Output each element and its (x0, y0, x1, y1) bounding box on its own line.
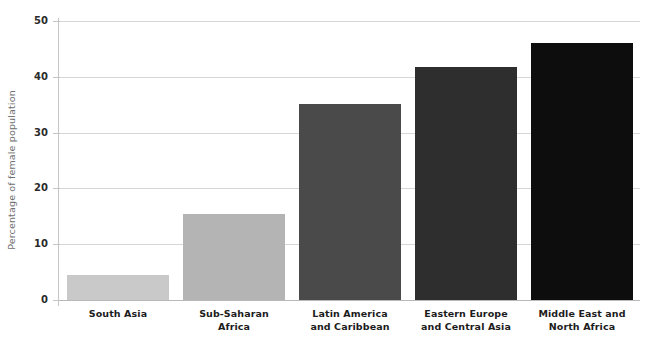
bar[interactable] (531, 43, 633, 300)
x-axis-label-line: South Asia (54, 308, 182, 321)
y-axis-tick (53, 244, 60, 245)
gridline (60, 300, 640, 301)
x-axis-label: Middle East andNorth Africa (518, 308, 646, 333)
x-axis-label-line: and Caribbean (286, 321, 414, 334)
x-axis-label-line: Africa (170, 321, 298, 334)
gridline (60, 21, 640, 22)
x-axis-label-line: Latin America (286, 308, 414, 321)
y-axis-tick (53, 21, 60, 22)
bar-chart: Percentage of female population 01020304… (0, 0, 653, 340)
y-axis-tick-label: 50 (8, 16, 48, 26)
y-axis-tick (53, 188, 60, 189)
y-axis-tick-label: 0 (8, 295, 48, 305)
y-axis-tick (53, 133, 60, 134)
x-axis-label: South Asia (54, 308, 182, 321)
x-axis-label: Eastern Europeand Central Asia (402, 308, 530, 333)
x-axis-label-line: North Africa (518, 321, 646, 334)
x-axis-label: Sub-SaharanAfrica (170, 308, 298, 333)
bar[interactable] (67, 275, 169, 300)
y-axis-title: Percentage of female population (0, 0, 22, 340)
y-axis-tick-label: 20 (8, 183, 48, 193)
x-axis-label-line: Middle East and (518, 308, 646, 321)
bar[interactable] (183, 214, 285, 300)
bar[interactable] (415, 67, 517, 300)
x-axis-label-line: Eastern Europe (402, 308, 530, 321)
y-axis-tick-label: 40 (8, 72, 48, 82)
x-axis-label: Latin Americaand Caribbean (286, 308, 414, 333)
y-axis-tick-label: 10 (8, 239, 48, 249)
x-axis-label-line: Sub-Saharan (170, 308, 298, 321)
x-axis-label-line: and Central Asia (402, 321, 530, 334)
y-axis-tick-label: 30 (8, 128, 48, 138)
y-axis-tick (53, 77, 60, 78)
y-axis-spine (58, 18, 59, 306)
y-axis-tick (53, 300, 60, 301)
bar[interactable] (299, 104, 401, 300)
